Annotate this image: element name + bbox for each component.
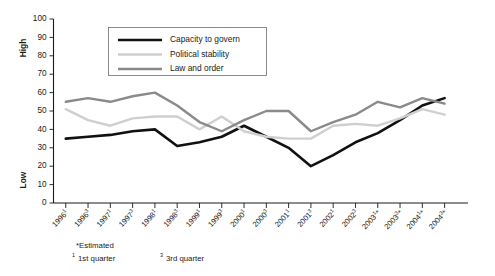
x-tick-label: 20031* — [359, 208, 382, 231]
y-axis-tick-labels: 0102030405060708090100 — [33, 14, 47, 207]
x-tick-label: 19993 — [205, 207, 226, 228]
legend-label-capacity-to-govern: Capacity to govern — [170, 34, 240, 44]
footnote-q1: 11st quarter — [72, 252, 116, 263]
data-series-group — [66, 93, 445, 167]
x-tick-label: 19963 — [72, 207, 93, 228]
footnote-estimated-text: Estimated — [79, 241, 114, 250]
y-tick-label: 40 — [37, 125, 47, 134]
y-tick-label: 60 — [37, 88, 47, 97]
footnote-q3-marker: 3 — [160, 252, 163, 258]
x-tick-label: 19991 — [183, 207, 204, 228]
x-tick-label: 20013 — [295, 207, 316, 228]
x-tick-label: 19983 — [161, 207, 182, 228]
x-axis-tick-labels: 1996119963199711997319981199831999119993… — [49, 207, 449, 231]
y-tick-label: 90 — [37, 33, 47, 42]
legend-label-political-stability: Political stability — [170, 49, 230, 59]
y-tick-label: 0 — [42, 198, 47, 207]
x-tick-label: 20003 — [250, 207, 271, 228]
footnotes: *Estimated 11st quarter 33rd quarter — [72, 241, 205, 263]
y-tick-label: 50 — [37, 106, 47, 115]
x-tick-label: 20033* — [382, 208, 405, 231]
y-tick-label: 100 — [33, 14, 47, 23]
y-tick-label: 20 — [37, 161, 47, 170]
legend-label-law-and-order: Law and order — [170, 63, 224, 73]
x-tick-label: 19961 — [49, 207, 70, 228]
x-tick-label: 19973 — [116, 207, 137, 228]
x-tick-label: 20001 — [228, 207, 249, 228]
x-tick-label: 20023 — [339, 207, 360, 228]
footnote-q3: 33rd quarter — [160, 252, 205, 263]
x-tick-label: 19981 — [139, 207, 160, 228]
x-tick-label: 20021 — [317, 207, 338, 228]
x-tick-label: 20041* — [404, 208, 427, 231]
footnote-q1-text: 1st quarter — [78, 254, 116, 263]
y-tick-label: 70 — [37, 69, 47, 78]
y-axis-ticks — [50, 19, 54, 203]
y-tick-label: 10 — [37, 180, 47, 189]
footnote-q1-marker: 1 — [72, 252, 75, 258]
line-chart: 0102030405060708090100 High Low 19961199… — [0, 0, 495, 276]
footnote-estimated: *Estimated — [76, 241, 114, 250]
y-axis-low-label: Low — [18, 171, 28, 188]
y-tick-label: 80 — [37, 51, 47, 60]
x-axis-ticks — [66, 203, 445, 208]
x-tick-label: 20043* — [426, 208, 449, 231]
chart-legend: Capacity to governPolitical stabilityLaw… — [109, 28, 267, 76]
y-tick-label: 30 — [37, 143, 47, 152]
series-line-law-and-order — [66, 93, 445, 132]
series-line-capacity-to-govern — [66, 98, 445, 166]
footnote-q3-text: 3rd quarter — [166, 254, 205, 263]
x-tick-label: 19971 — [94, 207, 115, 228]
x-tick-label: 20011 — [272, 207, 293, 228]
chart-container: 0102030405060708090100 High Low 19961199… — [0, 0, 495, 276]
y-axis-high-label: High — [18, 39, 28, 58]
